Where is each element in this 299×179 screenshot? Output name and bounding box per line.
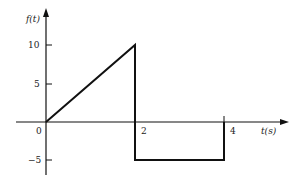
x-tick-label-2: 2 xyxy=(141,126,147,136)
x-axis-label: t(s) xyxy=(261,126,277,136)
x-axis-arrow-icon xyxy=(280,119,289,125)
y-tick-label-neg5: −5 xyxy=(28,155,42,165)
signal-chart: f(t) t(s) 10 5 −5 0 2 4 xyxy=(0,0,299,179)
y-axis-arrow-icon xyxy=(43,8,49,17)
signal-line xyxy=(46,45,224,160)
y-tick-label-5: 5 xyxy=(34,79,40,89)
y-tick-label-10: 10 xyxy=(28,40,40,50)
y-axis-label: f(t) xyxy=(25,14,40,24)
origin-label: 0 xyxy=(36,126,42,136)
x-tick-label-4: 4 xyxy=(230,126,236,136)
